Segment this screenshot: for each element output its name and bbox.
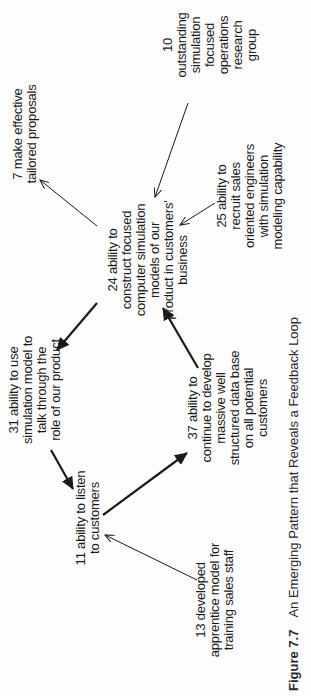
figure-title: An Emerging Pattern that Reveals a Feedb… — [286, 317, 301, 618]
node-10-operations-research-group: 10 outstanding simulation focused operat… — [161, 12, 259, 77]
arrow-11-to-37 — [103, 453, 187, 515]
arrow-24-to-7 — [40, 180, 97, 226]
arrow-13-to-11 — [105, 535, 197, 580]
node-11-listen-to-customers: 11 ability to listen to customers — [74, 471, 102, 566]
figure-page: 10 outstanding simulation focused operat… — [0, 0, 311, 696]
arrow-31-to-11 — [51, 450, 73, 489]
figure-caption: Figure 7.7An Emerging Pattern that Revea… — [286, 317, 301, 691]
node-24-construct-simulation-models: 24 ability to construct focused computer… — [106, 201, 190, 320]
node-7-tailored-proposals: 7 make effective tailored proposals — [11, 84, 39, 183]
diagram-canvas: 10 outstanding simulation focused operat… — [0, 0, 311, 696]
node-25-recruit-sales-engineers: 25 ability to recruit sales oriented eng… — [215, 143, 285, 250]
figure-number: Figure 7.7 — [286, 630, 301, 691]
node-13-apprentice-model: 13 developed apprentice model for traini… — [194, 543, 236, 658]
node-31-simulation-model-talk: 31 ability to use simulation model to ta… — [7, 336, 63, 444]
arrow-24-to-31 — [57, 303, 97, 350]
arrow-10-to-24 — [155, 103, 188, 197]
node-37-customer-database: 37 ability to continue to develop massiv… — [186, 351, 270, 466]
